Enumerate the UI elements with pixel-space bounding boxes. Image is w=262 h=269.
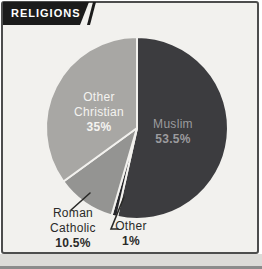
figure-religions-pie: Other Christian 35% Muslim 53.5% Roman C…: [0, 0, 262, 269]
slice-label-other-christian: Other Christian 35%: [64, 90, 134, 135]
badge-slash-decoration: [87, 2, 102, 25]
slice-label-text: Other: [101, 219, 161, 234]
slice-label-value: 35%: [64, 120, 134, 135]
chart-title-badge: RELIGIONS: [3, 2, 107, 25]
slice-label-other: Other 1%: [101, 219, 161, 249]
slice-label-value: 1%: [101, 234, 161, 249]
slice-label-value: 53.5%: [138, 132, 208, 147]
slice-label-text: Other Christian: [64, 90, 134, 120]
slice-label-text: Muslim: [138, 117, 208, 132]
chart-title: RELIGIONS: [3, 2, 89, 25]
slice-label-text: Roman Catholic: [38, 206, 108, 236]
slice-label-roman-catholic: Roman Catholic 10.5%: [38, 206, 108, 251]
slice-label-value: 10.5%: [38, 236, 108, 251]
slice-label-muslim: Muslim 53.5%: [138, 117, 208, 147]
